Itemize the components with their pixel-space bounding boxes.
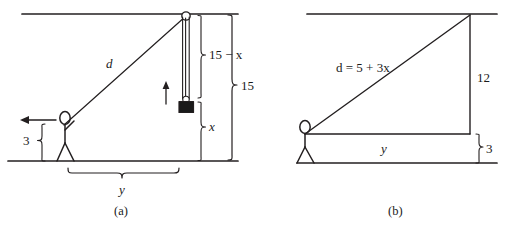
label-3-panel-a: 3 — [23, 134, 30, 147]
weight-block-icon — [179, 102, 194, 113]
label-d-panel-a: d — [106, 57, 113, 70]
label-15-minus-x: 15 − x — [209, 48, 242, 61]
caption-panel-b: (b) — [388, 205, 403, 218]
label-12-vertical-side: 12 — [477, 71, 490, 84]
panel-b-figure-leg-left — [297, 147, 305, 163]
brace-x — [198, 102, 206, 161]
label-x-panel-a: x — [209, 120, 215, 133]
figure-canvas — [0, 0, 508, 229]
brace-3-panel-b — [476, 134, 483, 163]
brace-y-panel-a — [68, 168, 179, 178]
label-3-panel-b: 3 — [486, 142, 493, 155]
panel-b-figure-leg-right — [305, 147, 314, 163]
panel-a-figure-head — [60, 112, 70, 125]
caption-panel-a: (a) — [114, 205, 128, 218]
label-y-panel-b: y — [381, 142, 387, 155]
brace-15-minus-x — [198, 16, 206, 99]
panel-a-figure-leg-right — [65, 143, 74, 161]
left-arrow-head-icon — [20, 116, 29, 124]
related-rates-figure: d 15 − x x 15 3 y (a) d = 5 + 3x 12 y 3 … — [0, 0, 508, 229]
label-15-total-height: 15 — [241, 79, 254, 92]
brace-3-panel-a — [38, 124, 46, 161]
panel-b-figure-head — [300, 121, 310, 134]
panel-a-figure-leg-left — [57, 143, 65, 161]
label-y-panel-a: y — [119, 183, 125, 196]
label-d-equation-panel-b: d = 5 + 3x — [336, 61, 390, 74]
up-arrow-head-icon — [163, 81, 170, 89]
panel-a-rope-d — [64, 16, 186, 125]
brace-15 — [228, 15, 237, 160]
